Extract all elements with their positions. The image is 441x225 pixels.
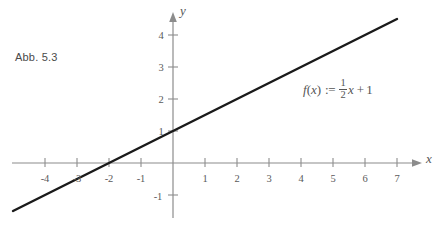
figure-container: Abb. 5.3 x y -4 -3 -2 -1 1 2 3 4 5 6 7 -… [0,0,441,225]
y-tick-label: 3 [158,62,163,73]
formula-intercept: 1 [366,83,373,96]
formula-assign-operator: := [325,83,335,96]
x-tick-label: 2 [234,173,239,184]
y-tick-label: 2 [158,94,163,105]
formula-denominator: 2 [339,90,346,101]
formula-plus-operator: + [357,83,364,96]
y-axis [169,12,177,218]
x-tick-label: 7 [394,173,399,184]
formula-fraction: 12 [339,78,347,101]
y-tick-label: -1 [154,191,163,202]
x-tick-label: 4 [298,173,303,184]
y-tick-label: 1 [158,126,163,137]
x-tick-label: 3 [266,173,271,184]
x-tick-label: -3 [73,173,82,184]
x-tick-label: 6 [362,173,367,184]
x-tick-label: 5 [330,173,335,184]
x-tick-label: 1 [202,173,207,184]
figure-caption: Abb. 5.3 [15,51,58,63]
x-axis-label: x [426,151,432,167]
formula-numerator: 1 [339,78,346,89]
x-tick-label: -4 [41,173,50,184]
formula-close-paren: ) [317,83,321,96]
formula-slope-variable: x [348,83,354,96]
x-tick-label: -2 [105,173,114,184]
x-tick-label: -1 [137,173,146,184]
y-tick-label: 4 [158,30,163,41]
x-axis [12,159,422,167]
plot-area [0,0,441,225]
y-axis-label: y [180,3,186,19]
function-annotation: f(x):=12x+1 [303,78,373,101]
